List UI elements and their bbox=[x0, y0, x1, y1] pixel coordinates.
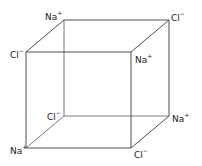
ion-label-back-bottom-left: Cl− bbox=[47, 111, 61, 122]
ion-label-back-top-right: Cl− bbox=[171, 12, 185, 23]
ion-charge: − bbox=[180, 10, 185, 17]
ion-charge: + bbox=[184, 111, 189, 118]
edge-top-right-depth bbox=[131, 20, 169, 52]
ion-symbol: Cl bbox=[47, 112, 56, 122]
cube-wireframe bbox=[0, 0, 202, 166]
ion-symbol: Cl bbox=[171, 13, 180, 23]
ion-label-front-top-right: Na+ bbox=[135, 54, 152, 65]
ion-charge: − bbox=[143, 147, 148, 154]
ion-symbol: Na bbox=[172, 114, 184, 124]
ion-charge: − bbox=[56, 109, 61, 116]
ion-label-back-top-left: Na+ bbox=[45, 11, 62, 22]
ion-symbol: Na bbox=[45, 12, 57, 22]
ion-symbol: Cl bbox=[134, 150, 143, 160]
ion-label-front-top-left: Cl− bbox=[10, 49, 24, 60]
ion-charge: − bbox=[19, 47, 24, 54]
ion-symbol: Na bbox=[10, 146, 22, 156]
ion-label-back-bottom-right: Na+ bbox=[172, 113, 189, 124]
ion-label-front-bottom-right: Cl− bbox=[134, 149, 148, 160]
ion-charge: + bbox=[147, 52, 152, 59]
edge-bottom-right-depth bbox=[131, 116, 169, 148]
ion-charge: + bbox=[22, 143, 27, 150]
ion-symbol: Cl bbox=[10, 50, 19, 60]
ion-symbol: Na bbox=[135, 55, 147, 65]
edge-top-left-depth bbox=[26, 20, 64, 52]
ion-charge: + bbox=[57, 9, 62, 16]
ion-label-front-bottom-left: Na+ bbox=[10, 145, 27, 156]
